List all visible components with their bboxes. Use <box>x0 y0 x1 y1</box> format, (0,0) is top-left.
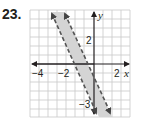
x-tick-neg2: −2 <box>58 68 70 79</box>
x-tick-2: 2 <box>114 68 120 79</box>
y-tick-neg3: −3 <box>79 99 91 110</box>
y-tick-2: 2 <box>86 35 92 46</box>
x-axis-label: x <box>123 67 129 79</box>
boundary-line-left <box>52 14 96 112</box>
coordinate-graph: y x −4 −2 2 2 −3 <box>0 0 143 124</box>
x-tick-neg4: −4 <box>32 68 44 79</box>
y-axis-label: y <box>97 9 103 21</box>
